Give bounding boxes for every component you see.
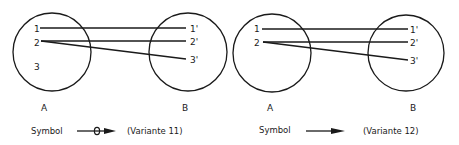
set-b-label: B (182, 103, 188, 113)
set-a-circle (13, 13, 91, 91)
set-b-circle (149, 13, 227, 91)
element-a3: 3 (34, 62, 40, 72)
diagram-variante-12: 1 2 1' 2' 3' A B Symbol (Variante 12) (233, 14, 444, 136)
element-a1: 1 (254, 24, 260, 34)
set-a-circle (233, 14, 311, 92)
mapping-diagrams: 1 2 3 1' 2' 3' A B Symbol (Variante 11) … (0, 0, 459, 145)
mapping-line-2-3p (263, 42, 408, 60)
element-b2: 2' (190, 37, 198, 47)
symbol-label: Symbol (259, 125, 291, 135)
element-a1: 1 (34, 24, 40, 34)
set-a-label: A (267, 103, 274, 113)
mapping-line-2-3p (41, 41, 186, 59)
element-a2: 2 (34, 38, 40, 48)
element-a2: 2 (254, 38, 260, 48)
element-b1: 1' (410, 25, 418, 35)
set-b-circle (368, 15, 444, 91)
element-b3: 3' (410, 56, 418, 66)
element-b3: 3' (190, 55, 198, 65)
variant-label: (Variante 11) (127, 126, 183, 136)
arrow-icon (306, 128, 345, 134)
element-b1: 1' (190, 24, 198, 34)
set-b-label: B (410, 103, 416, 113)
arrow-crossbar-icon (77, 127, 116, 134)
variant-label: (Variante 12) (363, 126, 419, 136)
symbol-label: Symbol (31, 126, 63, 136)
set-a-label: A (41, 103, 48, 113)
diagram-variante-11: 1 2 3 1' 2' 3' A B Symbol (Variante 11) (13, 13, 227, 136)
element-b2: 2' (410, 38, 418, 48)
